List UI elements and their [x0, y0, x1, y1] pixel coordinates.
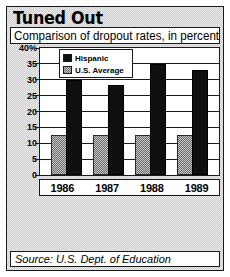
x-axis-label-1989: 1989 — [174, 182, 219, 194]
bar-us-average-1989 — [177, 135, 193, 175]
bar-group-1988 — [130, 48, 172, 175]
hispanic-swatch-icon — [63, 54, 72, 62]
legend-label-hispanic: Hispanic — [75, 54, 108, 63]
chart-legend: Hispanic U.S. Average — [59, 49, 133, 78]
chart-subtitle: Comparison of dropout rates, in percent — [14, 29, 219, 43]
bar-us-average-1986 — [51, 135, 67, 175]
legend-item-hispanic: Hispanic — [63, 52, 132, 64]
bar-group-1989 — [172, 48, 214, 175]
x-axis: 1986198719881989 — [39, 179, 220, 196]
x-axis-label-1986: 1986 — [40, 182, 85, 194]
bar-hispanic-1986 — [66, 80, 82, 175]
legend-label-us-average: U.S. Average — [75, 66, 124, 75]
chart-source: Source: U.S. Dept. of Education — [15, 253, 171, 265]
bar-hispanic-1989 — [192, 70, 208, 175]
bar-hispanic-1987 — [108, 85, 124, 175]
x-axis-label-1987: 1987 — [85, 182, 130, 194]
us-average-swatch-icon — [63, 66, 72, 74]
chart-source-banner: Source: U.S. Dept. of Education — [10, 251, 220, 267]
legend-item-us-average: U.S. Average — [63, 64, 132, 76]
x-axis-label-1988: 1988 — [130, 182, 175, 194]
chart-subtitle-banner: Comparison of dropout rates, in percent — [10, 27, 220, 44]
bar-us-average-1987 — [93, 135, 109, 175]
page-title: Tuned Out — [13, 9, 103, 28]
y-axis: 0510152025303540% — [9, 47, 39, 178]
chart-figure: Tuned Out Comparison of dropout rates, i… — [6, 6, 224, 271]
bar-us-average-1988 — [135, 135, 151, 175]
bar-hispanic-1988 — [150, 64, 166, 175]
chart-title-banner: Tuned Out — [10, 9, 222, 29]
